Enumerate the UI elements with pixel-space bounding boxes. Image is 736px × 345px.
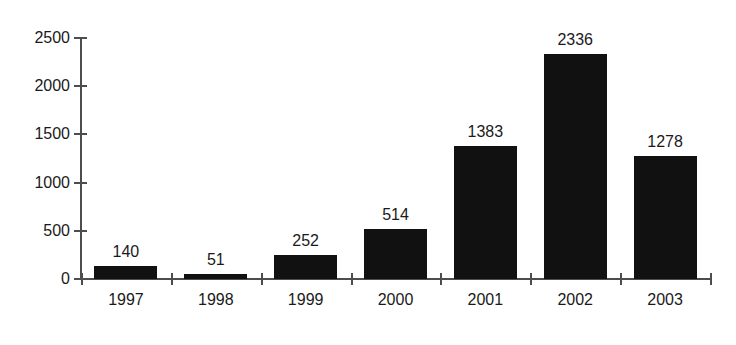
bar [364,229,427,279]
bar [94,266,157,279]
bar [454,146,517,279]
bar [634,156,697,279]
bar [544,54,607,279]
bar-value-label: 2336 [525,32,625,48]
bar-value-label: 252 [256,233,356,249]
x-axis-category-label: 1997 [76,292,176,308]
bar-value-label: 514 [346,207,446,223]
x-axis-category-label: 2000 [346,292,446,308]
x-axis-category-label: 2001 [435,292,535,308]
bar-value-label: 1278 [615,134,715,150]
bar-value-label: 1383 [435,124,535,140]
bar-chart: 05001000150020002500 1405125251413832336… [0,0,736,345]
x-axis-category-label: 2002 [525,292,625,308]
bar-value-label: 140 [76,244,176,260]
x-axis-category-label: 2003 [615,292,715,308]
x-axis-category-label: 1999 [256,292,356,308]
bar [274,255,337,279]
bar-value-label: 51 [166,252,266,268]
bar [184,274,247,279]
x-axis-category-label: 1998 [166,292,266,308]
